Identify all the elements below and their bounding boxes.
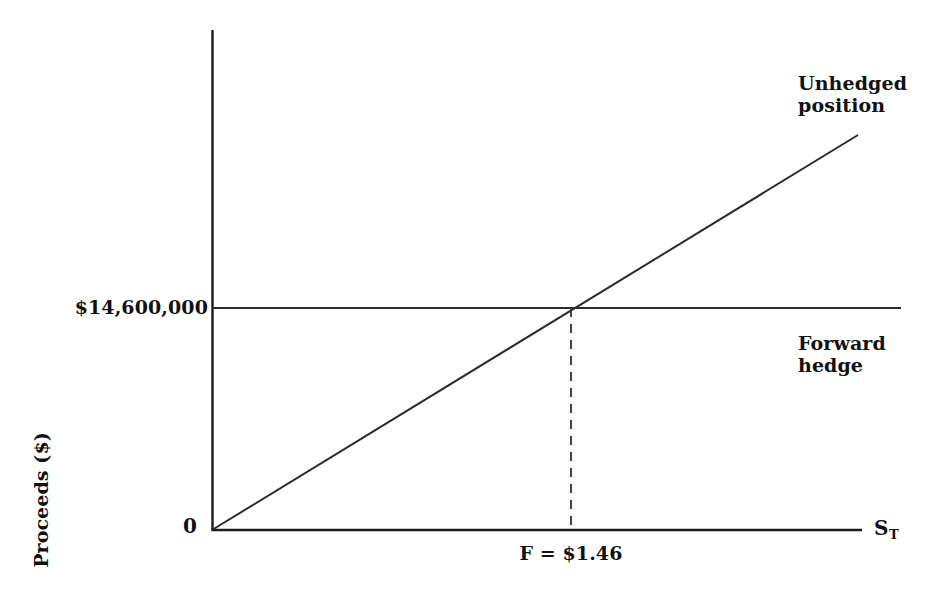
series-label-unhedged-position: Unhedgedposition — [798, 72, 907, 117]
series-label-unhedged-line1: Unhedged — [798, 72, 907, 94]
forward-hedge-payoff-chart: Proceeds ($) $14,600,000 0 Unhedgedposit… — [0, 0, 948, 592]
series-label-unhedged-line2: position — [798, 94, 885, 116]
series-label-forward-hedge: Forwardhedge — [798, 332, 886, 377]
series-label-forward-line1: Forward — [798, 332, 886, 354]
unhedged-position-line — [212, 135, 858, 530]
series-label-forward-line2: hedge — [798, 354, 863, 376]
x-axis-symbol: S — [874, 516, 889, 540]
y-axis-title: Proceeds ($) — [30, 415, 60, 585]
x-axis-title: ST — [874, 517, 898, 541]
origin-label: 0 — [183, 515, 197, 539]
y-axis-tick-label-proceeds: $14,600,000 — [60, 296, 208, 318]
x-axis-subscript: T — [889, 527, 899, 542]
x-axis-annotation-forward-price: F = $1.46 — [471, 542, 671, 564]
